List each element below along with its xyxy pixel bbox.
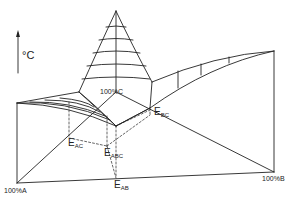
- c-liquidus-surface: [79, 11, 152, 126]
- corner-label-c: 100%C: [100, 88, 123, 95]
- eutectic-label-bc: EBC: [154, 107, 169, 118]
- temperature-arrow-icon: [16, 30, 20, 73]
- ternary-phase-diagram: [0, 0, 295, 198]
- base-triangle: [17, 92, 274, 183]
- vertical-edges: [17, 11, 274, 183]
- temperature-axis-label: °C: [22, 50, 34, 61]
- eutectic-label-ab: EAB: [114, 180, 129, 191]
- eutectic-label-ac: EAC: [68, 138, 83, 149]
- eutectic-label-abc: EABC: [104, 148, 123, 159]
- a-liquidus-surface: [17, 92, 116, 126]
- corner-label-b: 100%B: [262, 175, 285, 182]
- corner-label-a: 100%A: [4, 187, 27, 194]
